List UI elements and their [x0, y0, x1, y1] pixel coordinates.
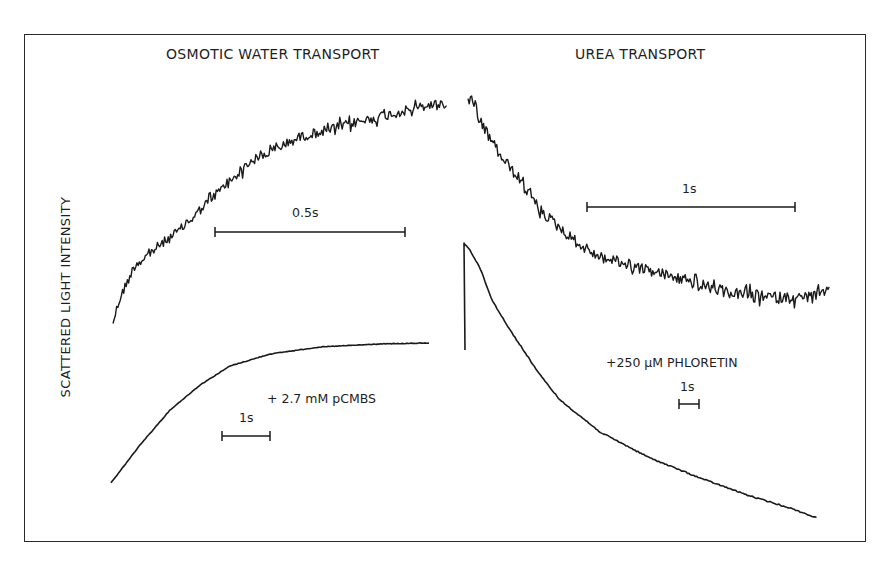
trace-panel0-series0 [113, 100, 447, 323]
scale-label-left-upper: 0.5s [292, 205, 318, 220]
scale-label-right-upper: 1s [682, 181, 696, 196]
trace-panel0-series1 [111, 343, 429, 483]
traces [111, 96, 829, 518]
scale-bar [215, 227, 405, 237]
scale-label-right-lower: 1s [680, 379, 694, 394]
treatment-label-pcmbs: + 2.7 mM pCMBS [267, 391, 376, 406]
treatment-label-phloretin: +250 μM PHLORETIN [606, 355, 738, 370]
plot-area [0, 0, 891, 565]
scale-bar [587, 202, 795, 212]
scale-bar [679, 399, 699, 409]
figure: OSMOTIC WATER TRANSPORT UREA TRANSPORT S… [0, 0, 891, 565]
scale-bar [222, 431, 270, 441]
trace-panel1-series1 [464, 243, 817, 518]
trace-panel1-series0 [468, 96, 829, 308]
scale-label-left-lower: 1s [239, 410, 253, 425]
